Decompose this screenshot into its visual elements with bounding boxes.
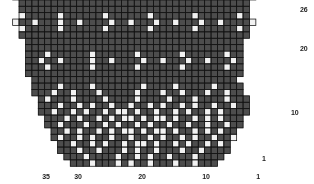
column-label-30: 30 xyxy=(74,173,81,180)
chart-grid-canvas xyxy=(0,0,314,184)
column-label-1: 1 xyxy=(256,173,260,180)
column-label-35: 35 xyxy=(42,173,49,180)
row-label-20: 20 xyxy=(300,45,307,52)
row-label-26: 26 xyxy=(300,6,307,13)
row-label-10: 10 xyxy=(291,109,298,116)
column-label-20: 20 xyxy=(138,173,145,180)
row-label-1: 1 xyxy=(262,155,266,162)
knitting-chart: 26 20 10 1 35 30 20 10 1 xyxy=(0,0,314,184)
column-label-10: 10 xyxy=(202,173,209,180)
